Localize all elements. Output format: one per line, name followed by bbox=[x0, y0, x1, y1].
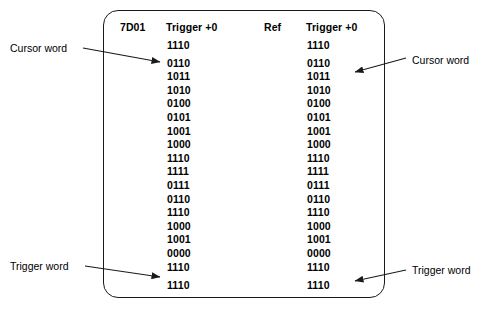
screenshot-root: Cursor word Trigger word Cursor word Tri… bbox=[0, 0, 488, 312]
word-row: 0110 bbox=[307, 193, 365, 207]
word-row: 1111 bbox=[307, 165, 365, 179]
word-row: 1001 bbox=[167, 233, 225, 247]
word-row: 0111 bbox=[167, 179, 225, 193]
annotation-cursor-word-left: Cursor word bbox=[10, 42, 67, 54]
column-header-trigger-right: Trigger +0 bbox=[306, 21, 357, 33]
word-row: 0100 bbox=[307, 97, 365, 111]
word-row: 1001 bbox=[307, 233, 365, 247]
word-row: 1110 bbox=[307, 279, 365, 293]
word-column-left: 1110011010111010010001011001100011101111… bbox=[167, 39, 225, 293]
word-row: 1110 bbox=[167, 279, 225, 293]
word-row: 1110 bbox=[167, 39, 225, 53]
word-row: 1110 bbox=[307, 261, 365, 275]
word-row: 0110 bbox=[167, 193, 225, 207]
word-row: 1000 bbox=[167, 220, 225, 234]
word-row: 1010 bbox=[167, 84, 225, 98]
word-column-right: 1110011010111010010001011001100011101111… bbox=[307, 39, 365, 293]
word-row: 0110 bbox=[167, 57, 225, 71]
word-row: 1001 bbox=[307, 125, 365, 139]
word-row: 0101 bbox=[307, 111, 365, 125]
word-row: 1110 bbox=[167, 206, 225, 220]
column-header-ref: Ref bbox=[264, 21, 281, 33]
word-row: 1110 bbox=[307, 39, 365, 53]
word-row: 1111 bbox=[167, 165, 225, 179]
word-row: 1001 bbox=[167, 125, 225, 139]
word-row: 1010 bbox=[307, 84, 365, 98]
column-header-trigger-left: Trigger +0 bbox=[166, 21, 217, 33]
logic-analyzer-display-panel: 7D01 Trigger +0 Ref Trigger +0 111001101… bbox=[103, 10, 385, 298]
word-row: 1011 bbox=[167, 70, 225, 84]
word-row: 1000 bbox=[307, 220, 365, 234]
word-row: 1110 bbox=[167, 152, 225, 166]
word-row: 0101 bbox=[167, 111, 225, 125]
word-row: 1000 bbox=[307, 138, 365, 152]
word-row: 1110 bbox=[307, 206, 365, 220]
word-row: 1000 bbox=[167, 138, 225, 152]
word-row: 0111 bbox=[307, 179, 365, 193]
word-row: 0100 bbox=[167, 97, 225, 111]
word-row: 0000 bbox=[167, 247, 225, 261]
word-row: 1110 bbox=[307, 152, 365, 166]
annotation-cursor-word-right: Cursor word bbox=[412, 54, 469, 66]
word-row: 0000 bbox=[307, 247, 365, 261]
word-row: 1011 bbox=[307, 70, 365, 84]
word-row: 0110 bbox=[307, 57, 365, 71]
word-row: 1110 bbox=[167, 261, 225, 275]
annotation-trigger-word-left: Trigger word bbox=[10, 260, 69, 272]
column-header-address: 7D01 bbox=[120, 21, 146, 33]
annotation-trigger-word-right: Trigger word bbox=[412, 264, 471, 276]
